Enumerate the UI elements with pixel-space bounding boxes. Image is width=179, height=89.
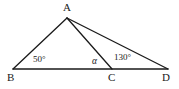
vertex-label-A: A (63, 2, 71, 13)
geometry-canvas (0, 0, 179, 89)
angle-label-50: 50° (33, 55, 46, 64)
vertex-label-B: B (7, 72, 14, 83)
vertex-label-C: C (108, 72, 115, 83)
angle-label-alpha: α (92, 57, 97, 67)
vertex-label-D: D (162, 72, 170, 83)
angle-label-130: 130° (114, 53, 131, 62)
segment-AC (67, 18, 112, 69)
geometry-diagram: A B C D 50° α 130° (0, 0, 179, 89)
